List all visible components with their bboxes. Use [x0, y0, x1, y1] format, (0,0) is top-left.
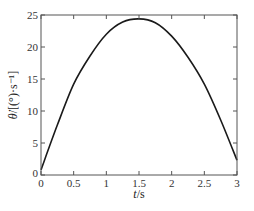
x-axis-label: t/s — [133, 187, 145, 201]
axes — [41, 15, 237, 175]
tick-labels: 00.511.522.530510152025 — [27, 9, 240, 189]
y-tick-label: 25 — [27, 9, 39, 21]
x-tick-label: 2 — [169, 177, 175, 189]
x-tick-label: 0 — [38, 177, 44, 189]
y-axis-label: θ̇/[(°)·s⁻¹] — [6, 71, 20, 119]
axes-box — [41, 15, 237, 175]
plot-area — [41, 19, 237, 170]
line-chart: 00.511.522.530510152025 t/s θ̇/[(°)·s⁻¹] — [0, 0, 254, 211]
x-tick-label: 2.5 — [197, 177, 211, 189]
x-tick-label: 1 — [104, 177, 110, 189]
ticks — [41, 15, 237, 175]
y-tick-label: 20 — [27, 41, 39, 53]
y-tick-label: 5 — [33, 137, 39, 149]
y-tick-label: 10 — [27, 105, 39, 117]
y-tick-label: 0 — [33, 167, 39, 179]
x-tick-label: 0.5 — [67, 177, 81, 189]
series-line — [41, 19, 237, 170]
x-tick-label: 3 — [234, 177, 240, 189]
y-tick-label: 15 — [27, 73, 39, 85]
